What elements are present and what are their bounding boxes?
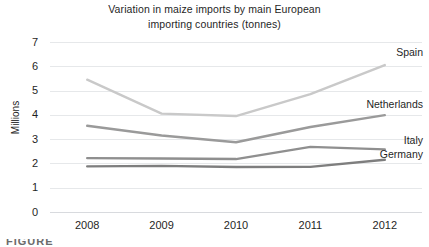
y-axis-tick-label: 0 xyxy=(32,207,38,218)
x-axis-tick-label: 2010 xyxy=(224,219,248,231)
caption-fragment-text: FIGURE xyxy=(6,239,80,247)
y-axis-tick-label: 7 xyxy=(32,37,38,48)
series-line-netherlands xyxy=(87,115,385,142)
x-axis-tick-label: 2011 xyxy=(299,219,323,231)
gridline xyxy=(50,212,422,213)
x-axis-tick-label: 2008 xyxy=(75,219,99,231)
x-axis-tick-labels: 20082009201020112012 xyxy=(50,219,422,235)
y-axis-tick-label: 6 xyxy=(32,61,38,72)
chart-figure: Variation in maize imports by main Europ… xyxy=(0,0,429,247)
y-axis-tick-label: 1 xyxy=(32,182,38,193)
chart-title-line-1: Variation in maize imports by main Europ… xyxy=(0,2,429,17)
series-label-spain: Spain xyxy=(396,46,423,57)
series-line-germany xyxy=(87,160,385,167)
chart-title: Variation in maize imports by main Europ… xyxy=(0,2,429,32)
chart-title-line-2: importing countries (tonnes) xyxy=(0,17,429,32)
series-lines xyxy=(50,42,422,212)
series-label-germany: Germany xyxy=(380,149,423,160)
series-label-netherlands: Netherlands xyxy=(366,98,423,109)
y-axis-tick-label: 5 xyxy=(32,85,38,96)
y-axis-tick-label: 3 xyxy=(32,134,38,145)
y-axis-tick-label: 4 xyxy=(32,109,38,120)
x-axis-tick-label: 2009 xyxy=(149,219,173,231)
y-axis-tick-label: 2 xyxy=(32,158,38,169)
x-axis-tick-label: 2012 xyxy=(373,219,397,231)
series-line-italy xyxy=(87,147,385,159)
series-label-italy: Italy xyxy=(404,135,423,146)
y-axis-tick-labels: 76543210 xyxy=(0,42,44,212)
series-line-spain xyxy=(87,65,385,116)
caption-fragment: FIGURE xyxy=(6,239,80,247)
plot-area xyxy=(50,42,422,212)
